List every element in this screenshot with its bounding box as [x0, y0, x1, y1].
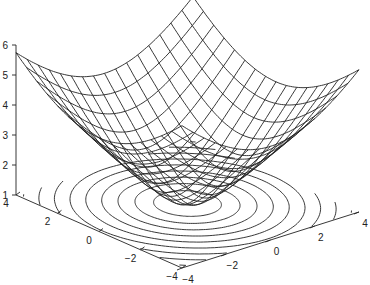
mesh-line-y — [16, 0, 193, 77]
x-tick-label: 2 — [318, 232, 324, 243]
x-tick-label: 4 — [362, 218, 368, 229]
plot-canvas: −4−2024−4−2024123456 — [0, 0, 370, 285]
mesh-line-x — [127, 63, 293, 186]
x-tick — [177, 268, 182, 270]
surface-mesh — [16, 0, 359, 205]
mesh-line-x — [171, 23, 337, 122]
z-tick-label: 6 — [2, 40, 8, 51]
y-tick-label: 0 — [86, 235, 92, 246]
y-tick-label: −2 — [125, 253, 137, 264]
surface-plot: −4−2024−4−2024123456 — [0, 0, 370, 285]
axes — [12, 45, 359, 270]
contour-line — [54, 181, 63, 214]
mesh-line-y — [109, 86, 286, 206]
x-tick-label: −2 — [227, 260, 239, 271]
z-tick-label: 5 — [2, 70, 8, 81]
x-tick-label: −4 — [182, 274, 194, 285]
mesh-line-y — [172, 75, 349, 159]
contour-line — [333, 202, 336, 220]
mesh-line-x — [160, 35, 326, 139]
z-tick-label: 4 — [2, 100, 8, 111]
mesh-line-x — [105, 73, 271, 205]
y-tick — [16, 192, 20, 195]
mesh-line-y — [58, 50, 235, 150]
mesh-line-y — [151, 84, 328, 178]
contour-line — [160, 258, 206, 260]
mesh-line-y — [47, 38, 224, 132]
y-tick-label: −4 — [166, 271, 178, 282]
y-tick-label: 2 — [45, 216, 51, 227]
z-tick-label: 3 — [2, 130, 8, 141]
contour-line — [140, 249, 227, 254]
contour-line — [39, 188, 42, 206]
contour-line — [312, 193, 321, 226]
z-tick-label: 1 — [2, 190, 8, 201]
mesh-line-y — [37, 25, 214, 114]
mesh-line-y — [26, 11, 203, 95]
x-tick-label: 0 — [274, 246, 280, 257]
z-tick-label: 2 — [2, 160, 8, 171]
